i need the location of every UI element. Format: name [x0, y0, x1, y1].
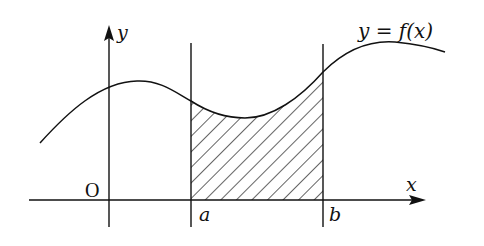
shaded-area: [191, 40, 323, 200]
curve-label: y = f(x): [357, 19, 433, 43]
y-axis-label: y: [116, 21, 128, 43]
origin-label: O: [85, 179, 99, 201]
x-axis-label: x: [406, 173, 417, 195]
a-label: a: [199, 203, 210, 225]
b-label: b: [329, 203, 341, 225]
y-axis: [104, 25, 114, 227]
area-under-curve-diagram: y x O a b y = f(x): [0, 0, 484, 246]
